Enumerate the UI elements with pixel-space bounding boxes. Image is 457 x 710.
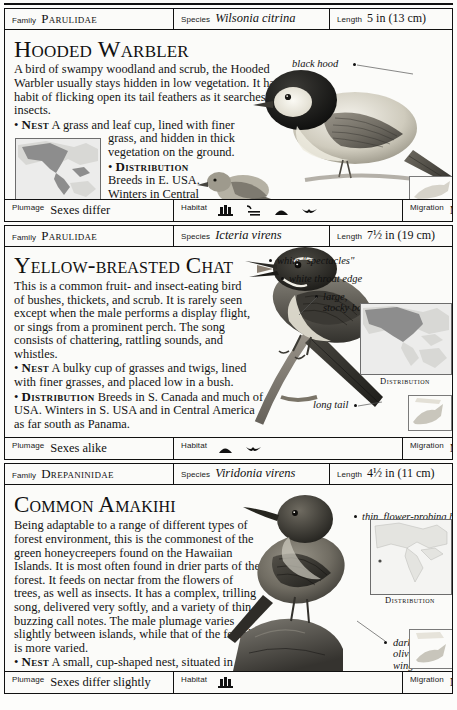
species-entry-yellow-breasted-chat: Family Parulidae Species Icteria virens … [4,225,453,460]
species-value: Icteria virens [215,228,282,243]
habitat-cell: Habitat [173,672,402,693]
plumage-value: Sexes differ [50,203,110,218]
species-cell: Species Icteria virens [173,226,329,246]
family-cell: Family Parulidae [5,226,173,246]
entry-header: Family Drepaninidae Species Viridonia vi… [5,464,452,485]
length-value: 4½ in (11 cm) [367,466,435,481]
reeds-icon [245,204,262,217]
silhouette-graphic [410,177,452,199]
habitat-cell: Habitat [173,200,402,221]
species-label: Species [181,15,210,24]
entry-body: Hooded Warbler A bird of swampy woodland… [5,30,452,199]
plumage-cell: Plumage Sexes differ slightly [5,672,173,693]
length-label: Length [337,15,362,24]
annotation-leader-line [357,60,417,78]
family-value: Parulidae [41,11,97,27]
habitat-icon-group [213,676,234,689]
species-entry-hooded-warbler: Family Parulidae Species Wilsonia citrin… [4,8,453,222]
entry-body: Common Amakihi Being adaptable to a rang… [5,485,452,671]
entry-header: Family Parulidae Species Icteria virens … [5,226,452,247]
migration-label: Migration [410,203,444,212]
habitat-icon-group [213,204,318,217]
silhouette-thumbnail [409,629,452,669]
silhouette-thumbnail [409,176,452,199]
plumage-label: Plumage [12,441,44,450]
plumage-label: Plumage [12,675,44,684]
female-hooded-warbler-illustration [191,160,311,199]
family-cell: Family Parulidae [5,9,173,29]
map-graphic [361,304,451,374]
migration-value: Migrant [450,203,452,218]
plumage-value: Sexes alike [50,441,107,456]
species-cell: Species Viridonia virens [173,464,329,484]
migration-label: Migration [410,441,444,450]
length-cell: Length 4½ in (11 cm) [329,464,452,484]
migration-label: Migration [410,675,444,684]
entry-footer: Plumage Sexes differ slightly Habitat Mi… [5,671,452,693]
bird-flight-icon [245,442,262,455]
species-label: Species [181,470,210,479]
entry-body: Yellow-breasted Chat This is a common fr… [5,247,452,437]
species-value: Viridonia virens [215,466,295,481]
species-entry-common-amakihi: Family Drepaninidae Species Viridonia vi… [4,463,453,694]
entry-footer: Plumage Sexes differ Habitat Migration M… [5,199,452,221]
migration-value: Non-migrant [450,675,452,690]
annotation-white-spectacles: white "spectacles" [277,255,354,266]
hill-icon [273,204,290,217]
plumage-value: Sexes differ slightly [50,675,150,690]
length-label: Length [337,470,362,479]
silhouette-graphic [409,396,451,430]
plumage-label: Plumage [12,203,44,212]
habitat-label: Habitat [181,441,207,450]
page-top-rule [4,3,453,5]
habitat-label: Habitat [181,203,207,212]
length-cell: Length 5 in (13 cm) [329,9,452,29]
habitat-label: Habitat [181,675,207,684]
map-graphic [16,139,100,199]
annotation-white-throat-edge: white throat edge [289,273,362,284]
bird-flight-icon [301,204,318,217]
entry-header: Family Parulidae Species Wilsonia citrin… [5,9,452,30]
plumage-cell: Plumage Sexes differ [5,200,173,221]
silhouette-graphic [410,630,452,668]
annotation-leader-line [358,400,386,414]
migration-cell: Migration Migrant [402,200,452,221]
entry-footer: Plumage Sexes alike Habitat Migration Mi… [5,437,452,459]
trees-icon [217,204,234,217]
length-label: Length [337,232,362,241]
length-cell: Length 7½ in (19 cm) [329,226,452,246]
habitat-icon-group [213,442,262,455]
hill-icon [217,442,234,455]
species-label: Species [181,232,210,241]
habitat-cell: Habitat [173,438,402,459]
migration-cell: Migration Migrant [402,438,452,459]
migration-value: Migrant [450,441,452,456]
length-value: 5 in (13 cm) [367,11,426,26]
annotation-long-tail: long tail [313,399,348,410]
family-value: Parulidae [41,228,97,244]
distribution-map [370,519,452,595]
field-guide-page: Family Parulidae Species Wilsonia citrin… [0,0,457,710]
family-label: Family [12,16,36,25]
distribution-map-caption: Distribution [357,376,452,386]
migration-cell: Migration Non-migrant [402,672,452,693]
trees-icon [217,676,234,689]
annotation-leader-line [297,297,319,319]
family-cell: Family Drepaninidae [5,464,173,484]
distribution-map-caption: Distribution [367,595,452,605]
silhouette-thumbnail [408,395,452,431]
plumage-cell: Plumage Sexes alike [5,438,173,459]
map-graphic [371,520,451,594]
annotation-leader-line [355,619,387,645]
family-label: Family [12,471,36,480]
length-value: 7½ in (19 cm) [367,228,435,243]
species-value: Wilsonia citrina [215,11,295,26]
species-cell: Species Wilsonia citrina [173,9,329,29]
annotation-black-hood: black hood [292,58,338,69]
family-value: Drepaninidae [41,466,114,482]
distribution-map [15,138,101,199]
family-label: Family [12,233,36,242]
distribution-map [360,303,452,375]
